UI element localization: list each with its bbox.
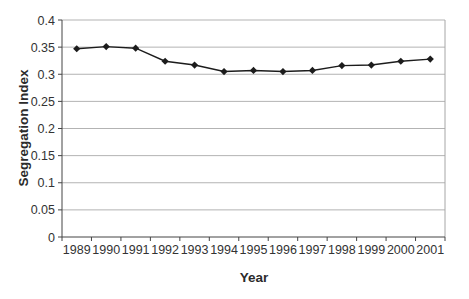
chart-canvas: 00.050.10.150.20.250.30.350.419891990199…	[0, 0, 469, 299]
x-tick-label: 2001	[416, 243, 444, 257]
segregation-index-line-chart: 00.050.10.150.20.250.30.350.419891990199…	[0, 0, 469, 299]
x-tick-label: 1995	[240, 243, 268, 257]
x-tick-label: 1991	[122, 243, 150, 257]
x-tick-label: 1994	[210, 243, 238, 257]
x-tick-label: 1992	[151, 243, 179, 257]
data-point-marker	[162, 58, 169, 65]
x-axis-title: Year	[240, 270, 269, 285]
y-tick-label: 0.15	[31, 149, 55, 163]
y-tick-label: 0.4	[38, 14, 55, 28]
x-tick-label: 1990	[92, 243, 120, 257]
x-tick-label: 2000	[387, 243, 415, 257]
data-point-marker	[132, 45, 139, 52]
data-point-marker	[368, 61, 375, 68]
x-tick-label: 1989	[63, 243, 91, 257]
y-tick-label: 0.25	[31, 95, 55, 109]
x-tick-label: 1996	[269, 243, 297, 257]
data-point-marker	[250, 67, 257, 74]
data-point-marker	[427, 55, 434, 62]
y-tick-label: 0.35	[31, 41, 55, 55]
data-point-marker	[73, 45, 80, 52]
data-point-marker	[103, 43, 110, 50]
x-tick-label: 1998	[328, 243, 356, 257]
data-point-marker	[309, 67, 316, 74]
data-point-marker	[338, 62, 345, 69]
y-axis-title: Segregation Index	[16, 69, 31, 186]
y-tick-label: 0.3	[38, 68, 55, 82]
data-point-marker	[191, 61, 198, 68]
x-tick-label: 1997	[299, 243, 327, 257]
y-tick-label: 0.2	[38, 122, 55, 136]
y-tick-label: 0	[48, 231, 55, 245]
x-tick-label: 1999	[357, 243, 385, 257]
y-tick-label: 0.1	[38, 176, 55, 190]
y-tick-label: 0.05	[31, 203, 55, 217]
data-point-marker	[397, 58, 404, 65]
x-tick-label: 1993	[181, 243, 209, 257]
